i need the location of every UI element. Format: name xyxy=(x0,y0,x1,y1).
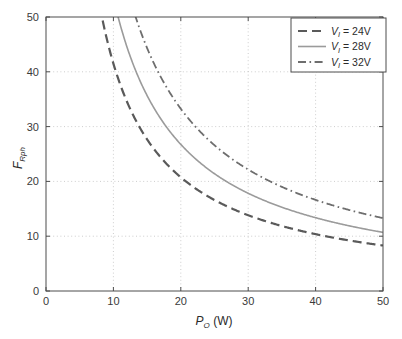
chart-svg: 01020304050 01020304050 PO (W) FRph VI =… xyxy=(0,0,402,339)
y-tick-label: 20 xyxy=(27,175,39,187)
x-tick-label: 40 xyxy=(309,295,321,307)
y-tick-label: 30 xyxy=(27,121,39,133)
y-tick-label: 0 xyxy=(33,285,39,297)
svg-text:PO (W): PO (W) xyxy=(196,314,233,330)
x-tick-label: 10 xyxy=(107,295,119,307)
y-tick-label: 40 xyxy=(27,66,39,78)
chart-figure: 01020304050 01020304050 PO (W) FRph VI =… xyxy=(0,0,402,339)
x-tick-label: 0 xyxy=(43,295,49,307)
y-tick-label: 50 xyxy=(27,11,39,23)
y-tick-label: 10 xyxy=(27,230,39,242)
x-tick-label: 50 xyxy=(377,295,389,307)
x-tick-label: 20 xyxy=(175,295,187,307)
chart-legend[interactable]: VI = 24VVI = 28VVI = 32V xyxy=(291,18,386,72)
x-tick-label: 30 xyxy=(242,295,254,307)
x-axis-title: PO (W) xyxy=(196,314,233,330)
